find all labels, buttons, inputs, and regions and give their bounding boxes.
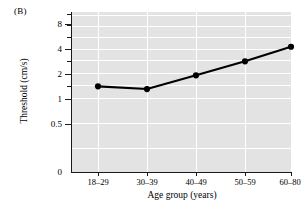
x-axis-tick-label-18-29: 18–29 [87, 177, 108, 187]
data-point [95, 83, 101, 89]
x-axis-tick [196, 172, 197, 176]
y-axis-tick-label-1: 1 [58, 95, 63, 104]
y-axis-tick-2 [65, 74, 72, 75]
y-axis-tick-1 [65, 99, 72, 100]
y-axis-tick-label-0: 0 [58, 168, 63, 177]
x-axis-tick-label-50-59: 50–59 [234, 177, 255, 187]
y-axis-tick-label-4: 4 [58, 45, 63, 54]
x-axis-tick [291, 172, 292, 176]
y-axis-title: Threshold (cm/s) [19, 36, 29, 146]
x-axis-tick [98, 172, 99, 176]
series-line-threshold [98, 47, 291, 89]
x-axis-tick [147, 172, 148, 176]
x-axis-title: Age group (years) [72, 190, 292, 200]
data-point [288, 44, 294, 50]
y-axis-tick-label-8: 8 [58, 20, 63, 29]
y-axis-tick-8 [65, 24, 72, 25]
panel-label: (B) [14, 6, 27, 16]
x-axis-tick-label-30-39: 30–39 [136, 177, 157, 187]
x-axis-tick-label-60-80: 60–80 [279, 177, 300, 187]
data-point [193, 72, 199, 78]
data-point [144, 86, 150, 92]
y-axis-tick-4 [65, 49, 72, 50]
figure-panel-b: (B) 8 4 2 1 0.5 0 [0, 0, 305, 210]
data-point [242, 58, 248, 64]
y-axis-tick-label-2: 2 [58, 70, 63, 79]
y-axis-tick-0p5 [65, 124, 72, 125]
series-markers-threshold [95, 44, 294, 93]
y-axis-tick-label-0.5: 0.5 [51, 120, 62, 129]
x-axis-tick [245, 172, 246, 176]
x-axis-tick-label-40-49: 40–49 [185, 177, 206, 187]
data-series-layer [72, 12, 292, 172]
